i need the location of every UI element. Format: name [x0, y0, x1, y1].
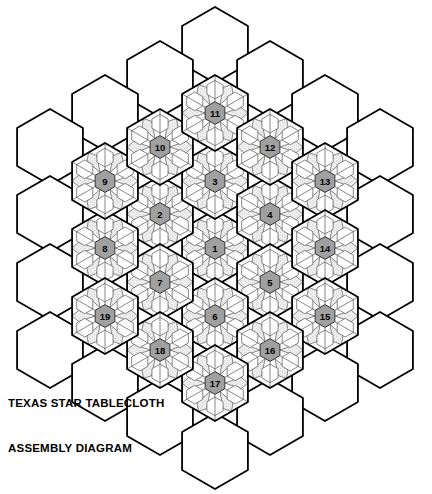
- block-number-8: 8: [102, 243, 107, 254]
- block-number-5: 5: [267, 277, 273, 288]
- block-number-17: 17: [210, 378, 221, 389]
- diagram-title: TEXAS STAR TABLECLOTH ASSEMBLY DIAGRAM: [8, 366, 164, 486]
- block-number-4: 4: [267, 209, 273, 220]
- block-number-12: 12: [265, 142, 276, 153]
- block-number-15: 15: [320, 311, 331, 322]
- block-number-7: 7: [157, 277, 162, 288]
- block-number-10: 10: [155, 142, 166, 153]
- title-line-2: ASSEMBLY DIAGRAM: [8, 441, 164, 456]
- block-number-1: 1: [212, 243, 218, 254]
- title-line-1: TEXAS STAR TABLECLOTH: [8, 396, 164, 411]
- block-number-9: 9: [102, 176, 107, 187]
- block-number-18: 18: [155, 345, 166, 356]
- block-number-13: 13: [320, 176, 331, 187]
- block-number-11: 11: [210, 108, 221, 119]
- block-number-14: 14: [320, 243, 331, 254]
- block-number-16: 16: [265, 345, 276, 356]
- block-number-2: 2: [157, 209, 162, 220]
- block-number-19: 19: [100, 311, 111, 322]
- block-number-3: 3: [212, 176, 217, 187]
- quilt-assembly-diagram: 12345678910111213141516171819 TEXAS STAR…: [0, 0, 432, 494]
- block-number-6: 6: [212, 311, 217, 322]
